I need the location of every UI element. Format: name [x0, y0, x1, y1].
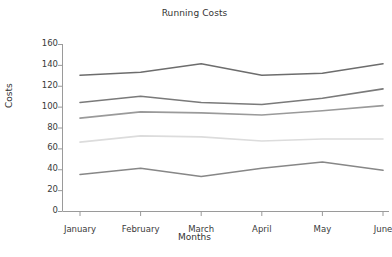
series-line-series-4	[80, 136, 383, 142]
series-line-series-3	[80, 106, 383, 119]
series-line-series-2	[80, 89, 383, 105]
series-line-series-5	[80, 162, 383, 177]
series-line-series-1	[80, 64, 383, 75]
